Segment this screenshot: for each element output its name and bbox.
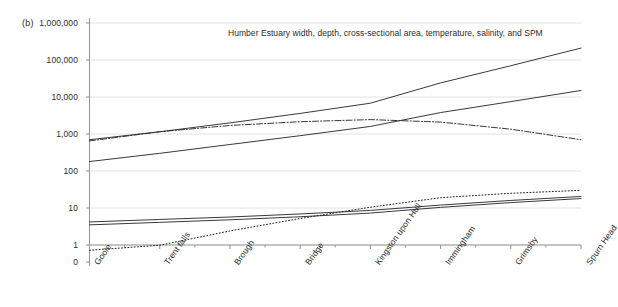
x-tick-label: Brough [232,238,256,267]
x-tick-label: Bridge [303,240,326,266]
x-tick-label: Goole [92,242,113,267]
x-tick-label: Immingham [443,224,477,267]
x-tick-label: Grimsby [513,235,540,267]
x-tick-label: Spurn Head [584,223,618,267]
x-tick-label: Kingston upon Hull [373,201,423,267]
x-tick-label: Trent falls [162,230,192,267]
